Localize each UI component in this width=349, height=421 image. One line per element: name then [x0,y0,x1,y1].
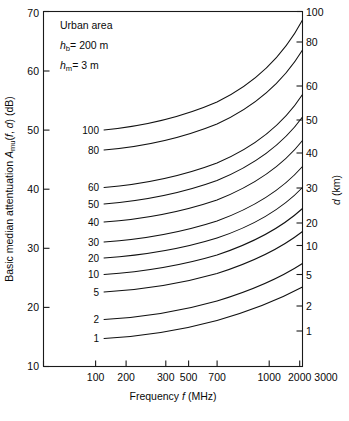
hb-value: = 200 m [70,39,108,51]
x-tick-label: 200 [117,371,135,383]
y-tick-label: 60 [27,65,39,77]
figure-background [0,0,349,421]
curve-label: 40 [88,217,100,228]
y-axis-title-subscript: mu [8,141,17,152]
curve-label: 2 [93,314,99,325]
right-tick-label: 30 [306,182,318,194]
y-axis-title-pre: Basic median attentuation [3,158,15,282]
right-axis-title: d (km) [330,175,342,205]
curve-label: 1 [93,333,99,344]
right-tick-label: 1 [306,325,312,337]
y-tick-label: 70 [27,7,39,19]
hm-value: = 3 m [72,59,99,71]
x-tick-label: 500 [180,371,198,383]
curve-label: 20 [88,253,100,264]
right-tick-label: 100 [306,6,324,18]
x-axis-title: Frequency f (MHz) [130,390,217,402]
right-tick-label: 50 [306,114,318,126]
x-tick-label: 1000 [258,371,282,383]
right-tick-label: 60 [306,80,318,92]
curve-label: 60 [88,182,100,193]
x-tick-label: 2000 [288,371,312,383]
y-tick-label: 50 [27,124,39,136]
x-axis-title-pre: Frequency [130,390,183,402]
right-tick-label: 5 [306,269,312,281]
figure-container: 10 20 30 40 50 60 70 100 200 300 500 700… [0,0,349,421]
x-axis-title-post: (MHz) [185,390,217,402]
curve-label: 80 [88,145,100,156]
y-tick-label: 20 [27,301,39,313]
curve-label: 30 [88,237,100,248]
curve-label: 10 [88,269,100,280]
chart-svg: 10 20 30 40 50 60 70 100 200 300 500 700… [0,0,349,421]
right-tick-label: 80 [306,36,318,48]
y-axis-title-post: ) (dB) [3,96,15,122]
right-tick-label: 10 [306,240,318,252]
right-tick-label: 2 [306,300,312,312]
right-axis-title-post: (km) [330,175,342,199]
curve-label: 50 [88,199,100,210]
x-tick-label: 300 [157,371,175,383]
annotation-line-urban-area: Urban area [60,19,113,31]
x-axis-tick-labels: 100 200 300 500 700 1000 2000 3000 [87,371,338,383]
curve-label: 100 [82,125,99,136]
y-tick-label: 40 [27,183,39,195]
right-tick-label: 20 [306,217,318,229]
x-tick-label: 100 [87,371,105,383]
x-tick-label: 3000 [314,371,338,383]
curve-label: 5 [93,287,99,298]
y-axis-title: Basic median attentuation Amu(f, d) (dB) [3,96,17,282]
x-tick-label: 700 [208,371,226,383]
y-tick-label: 30 [27,242,39,254]
right-tick-label: 40 [306,147,318,159]
y-tick-label: 10 [27,360,39,372]
y-axis-title-symbol: A [3,151,15,159]
